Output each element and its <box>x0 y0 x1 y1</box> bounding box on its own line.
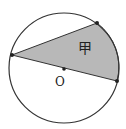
point-a <box>10 53 14 57</box>
shaded-region-jia <box>12 23 119 81</box>
point-b <box>95 21 99 25</box>
point-c <box>115 79 119 83</box>
circle-diagram: 甲 O <box>0 0 126 129</box>
center-point-o <box>62 67 66 71</box>
center-label: O <box>55 75 65 89</box>
region-label: 甲 <box>78 40 92 56</box>
